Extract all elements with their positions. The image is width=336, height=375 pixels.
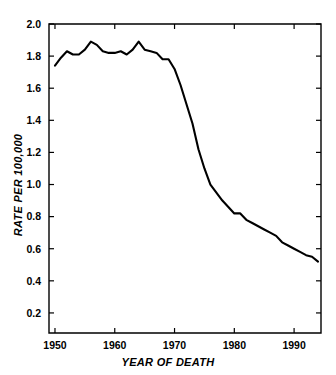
y-tick-label: 2.0 [26,18,41,30]
x-tick-label: 1970 [163,339,187,351]
data-line-rate [55,42,318,262]
line-chart: 0.20.40.60.81.01.21.41.61.82.0 195019601… [0,0,336,375]
chart-container: 0.20.40.60.81.01.21.41.61.82.0 195019601… [0,0,336,375]
x-tick-label: 1950 [43,339,67,351]
data-series-group [55,42,318,262]
y-tick-label: 1.6 [26,82,41,94]
y-tick-label: 1.2 [26,146,41,158]
y-axis-ticks [49,24,321,313]
y-tick-label: 0.2 [26,307,41,319]
plot-frame [49,24,321,333]
y-tick-label: 0.4 [26,275,41,287]
x-axis-title: YEAR OF DEATH [122,356,216,368]
x-tick-label: 1990 [282,339,306,351]
x-tick-label: 1980 [223,339,247,351]
y-tick-label: 0.8 [26,210,41,222]
y-tick-label: 1.0 [26,178,41,190]
y-tick-label: 1.8 [26,50,41,62]
x-axis-tick-labels: 19501960197019801990 [43,339,306,351]
y-axis-title: RATE PER 100,000 [12,133,24,236]
y-tick-label: 0.6 [26,243,41,255]
y-tick-label: 1.4 [26,114,41,126]
x-tick-label: 1960 [103,339,127,351]
y-axis-tick-labels: 0.20.40.60.81.01.21.41.61.82.0 [26,18,41,319]
